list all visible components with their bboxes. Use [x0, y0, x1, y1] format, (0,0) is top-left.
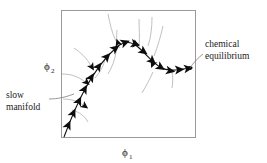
x-axis-label: ϕ — [122, 146, 128, 158]
figure-background — [0, 0, 267, 163]
slow-manifold-phase-diagram: slow manifold chemical equilibrium ϕ 2 ϕ… — [0, 0, 267, 163]
y-axis-label: ϕ — [44, 60, 50, 72]
y-axis-label-subscript: 2 — [51, 67, 55, 75]
chemical-equilibrium-label-line2: equilibrium — [205, 51, 250, 61]
x-axis-label-subscript: 1 — [129, 153, 133, 161]
slow-manifold-label-line1: slow — [6, 90, 24, 100]
slow-manifold-label-line2: manifold — [6, 102, 41, 112]
chemical-equilibrium-label-line1: chemical — [205, 39, 240, 49]
